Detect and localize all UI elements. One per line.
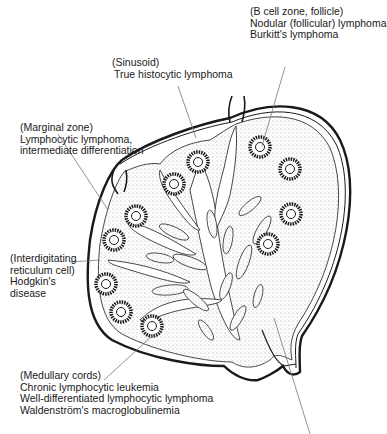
label-medullary-cords-line: Waldenström's macroglobulinemia: [20, 405, 213, 417]
label-sinusoid-line: True histocytic lymphoma: [112, 69, 233, 81]
label-sinusoid-title: (Sinusoid): [112, 57, 233, 69]
follicle: [258, 234, 278, 254]
label-medullary-cords-title: (Medullary cords): [20, 370, 213, 382]
follicle: [188, 152, 208, 172]
label-medullary-cords: (Medullary cords) Chronic lymphocytic le…: [20, 370, 213, 416]
label-marginal-zone-title: (Marginal zone): [20, 122, 144, 134]
label-interdigitating-line: disease: [10, 288, 77, 300]
label-interdigitating-title: (Interdigitating: [10, 253, 77, 265]
label-b-cell-zone: (B cell zone, follicle) Nodular (follicu…: [250, 6, 387, 41]
label-interdigitating: (Interdigitating reticulum cell) Hodgkin…: [10, 253, 77, 299]
follicle: [281, 204, 301, 224]
follicle: [111, 302, 131, 322]
follicle: [126, 206, 146, 226]
follicle: [104, 230, 124, 250]
follicle: [96, 274, 116, 294]
label-b-cell-zone-line: Burkitt's lymphoma: [250, 29, 387, 41]
follicle: [280, 159, 300, 179]
label-marginal-zone: (Marginal zone) Lymphocytic lymphoma, in…: [20, 122, 144, 157]
label-marginal-zone-line: intermediate differentiation: [20, 145, 144, 157]
follicle: [142, 316, 162, 336]
label-b-cell-zone-title: (B cell zone, follicle): [250, 6, 387, 18]
label-interdigitating-line: Hodgkin's: [10, 276, 77, 288]
follicle: [164, 174, 184, 194]
label-sinusoid: (Sinusoid) True histocytic lymphoma: [112, 57, 233, 80]
label-medullary-cords-line: Well-differentiated lymphocytic lymphoma: [20, 393, 213, 405]
follicle: [250, 137, 270, 157]
